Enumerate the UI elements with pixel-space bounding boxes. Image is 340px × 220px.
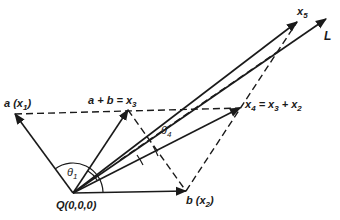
label-origin: Q(0,0,0) — [56, 200, 96, 211]
vector-a — [15, 114, 73, 193]
label-theta1: θ1 — [67, 167, 77, 181]
vector-diagram: a (x1) a + b = x3 x4 = x3 + x2 x5 L b (x… — [0, 0, 340, 220]
vector-b — [73, 191, 186, 193]
label-x4: x4 = x3 + x2 — [245, 99, 302, 113]
label-theta4: θ4 — [161, 125, 171, 139]
label-x3: a + b = x3 — [88, 95, 136, 109]
label-L: L — [324, 30, 331, 42]
label-x5: x5 — [297, 6, 308, 20]
label-b-x2: b (x2) — [186, 195, 214, 209]
label-a-x1: a (x1) — [4, 98, 31, 112]
